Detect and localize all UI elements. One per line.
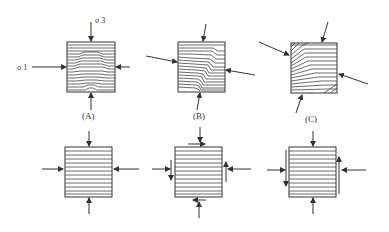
sigma3-label: σ 3 xyxy=(95,16,105,25)
panel-a-initial-box xyxy=(65,147,112,197)
arrow-up-b xyxy=(197,93,200,110)
panel-c-deformed: (C) xyxy=(259,22,368,124)
panel-c-initial xyxy=(267,131,366,214)
panel-a-layers xyxy=(67,45,115,90)
panel-a-deformed: σ 3 σ 1 (A) xyxy=(17,16,130,121)
panel-b-deformed: (B) xyxy=(146,24,255,121)
panel-b-layers xyxy=(178,45,225,91)
panel-a-label: (A) xyxy=(82,111,95,121)
arrow-down-b xyxy=(203,24,206,41)
panel-c-initial-layers xyxy=(289,151,336,194)
arrow-left-b xyxy=(226,70,255,75)
panel-b-initial xyxy=(152,127,251,218)
arrow-right-b xyxy=(146,56,177,62)
arrow-down-c xyxy=(322,22,328,42)
arrow-up-c xyxy=(296,95,302,113)
panel-b-label: (B) xyxy=(193,111,205,121)
panel-a-initial xyxy=(42,131,139,214)
sigma1-label: σ 1 xyxy=(17,63,27,72)
panel-b-initial-layers xyxy=(175,151,222,194)
panel-c-layers xyxy=(291,43,337,93)
panel-c-label: (C) xyxy=(305,114,317,124)
diagram-canvas: σ 3 σ 1 (A) (B) xyxy=(0,0,389,232)
arrow-right-c xyxy=(259,42,289,55)
panel-b-initial-box xyxy=(175,147,222,197)
panel-a-initial-layers xyxy=(65,151,112,194)
arrow-left-c xyxy=(339,74,368,84)
panel-c-initial-box xyxy=(289,147,336,197)
